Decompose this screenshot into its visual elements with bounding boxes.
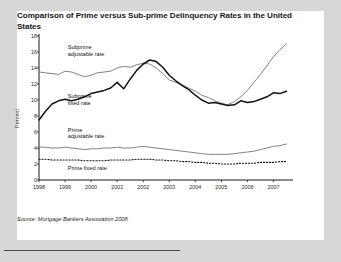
x-tick-1998: 1998 [26,184,52,190]
x-tick-2000: 2000 [78,184,104,190]
figure-page: Comparison of Prime versus Sub-prime Del… [0,0,341,262]
annotation-1: Subprime fixed rate [68,93,92,107]
y-tick-0: 0 [23,177,37,183]
series-line-2 [39,144,286,154]
y-tick-4: 4 [23,145,37,151]
chart-plot-area: Percent 024681012141618 1998199920002001… [17,32,297,210]
series-line-3 [39,159,286,164]
annotation-2: Prime adjustable rate [68,127,105,141]
source-note: Source: Mortgage Bankers Association 200… [17,216,129,222]
y-tick-10: 10 [23,97,37,103]
annotation-3: Prime fixed rate [68,165,107,172]
page-title: Comparison of Prime versus Sub-prime Del… [17,10,295,32]
bottom-rule [4,250,180,251]
x-tick-2006: 2006 [234,184,260,190]
y-tick-8: 8 [23,113,37,119]
series-line-1 [39,60,286,120]
y-tick-16: 16 [23,49,37,55]
x-tick-2007: 2007 [260,184,286,190]
x-tick-2001: 2001 [104,184,130,190]
x-tick-2003: 2003 [156,184,182,190]
y-tick-2: 2 [23,161,37,167]
x-tick-1999: 1999 [52,184,78,190]
y-tick-12: 12 [23,81,37,87]
y-axis-label: Percent [14,109,20,128]
x-tick-2004: 2004 [182,184,208,190]
annotation-0: Subprime adjustable rate [68,44,105,58]
y-tick-6: 6 [23,129,37,135]
x-tick-2002: 2002 [130,184,156,190]
x-tick-2005: 2005 [208,184,234,190]
y-tick-14: 14 [23,65,37,71]
y-tick-18: 18 [23,33,37,39]
